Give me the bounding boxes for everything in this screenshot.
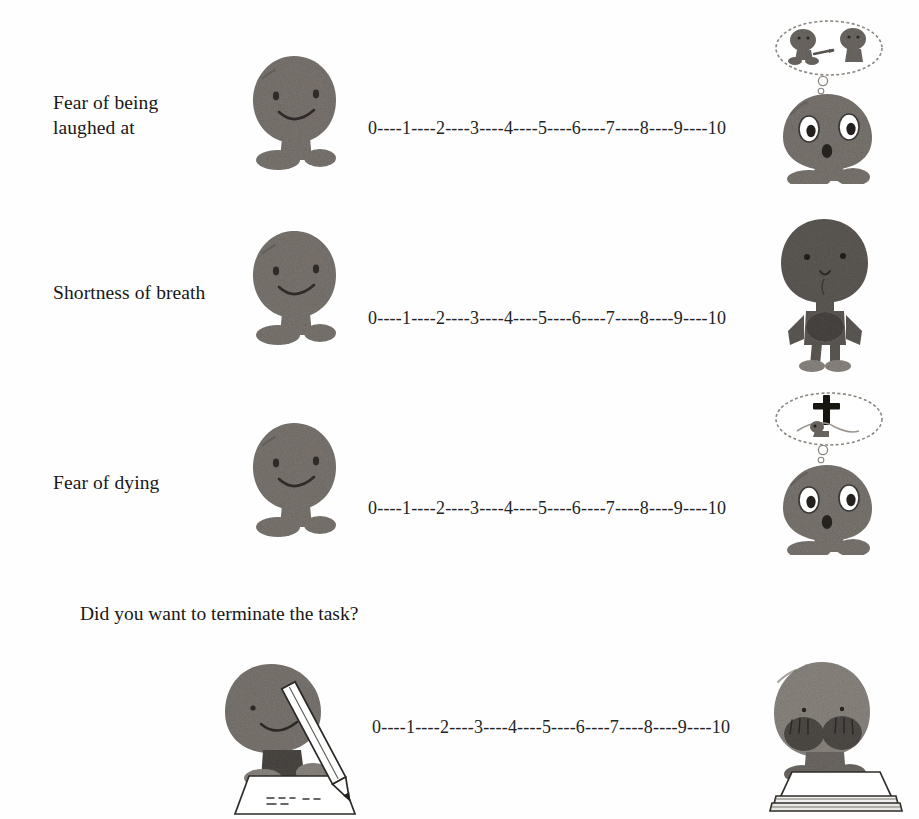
- termination-question: Did you want to terminate the task?: [80, 603, 358, 625]
- termination-row: 0----1----2----3----4----5----6----7----…: [0, 650, 919, 819]
- shocked-figure-with-grave-cross-thought-bubble: [757, 387, 897, 555]
- rating-scale-shortness-of-breath[interactable]: 0----1----2----3----4----5----6----7----…: [368, 308, 726, 329]
- rating-scale-fear-of-being-laughed-at[interactable]: 0----1----2----3----4----5----6----7----…: [368, 118, 726, 139]
- standing-figure-clutching-chest: [760, 213, 890, 373]
- figure-covering-face-over-papers: [752, 658, 912, 816]
- figure-writing-with-pencil: [205, 658, 380, 818]
- item-row-shortness-of-breath: Shortness of breath 0----1----2----3----…: [0, 195, 919, 385]
- shocked-figure-with-laughing-people-thought-bubble: [757, 16, 897, 184]
- rating-scale-fear-of-dying[interactable]: 0----1----2----3----4----5----6----7----…: [368, 498, 726, 519]
- calm-sitting-figure: [232, 415, 350, 537]
- item-label-fear-of-being-laughed-at: Fear of being laughed at: [53, 90, 158, 140]
- rating-scale-termination[interactable]: 0----1----2----3----4----5----6----7----…: [372, 717, 730, 738]
- item-row-fear-of-dying: Fear of dying 0----1----2----3----4----5…: [0, 385, 919, 575]
- calm-sitting-figure: [232, 48, 350, 170]
- calm-sitting-figure: [232, 223, 350, 345]
- worksheet-page: Fear of being laughed at 0----1----2----…: [0, 0, 919, 819]
- item-row-fear-of-being-laughed-at: Fear of being laughed at 0----1----2----…: [0, 0, 919, 200]
- item-label-fear-of-dying: Fear of dying: [53, 470, 159, 495]
- item-label-shortness-of-breath: Shortness of breath: [53, 280, 205, 305]
